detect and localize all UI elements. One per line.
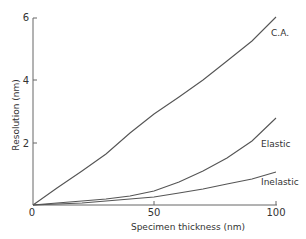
series-label-ca: C.A.: [271, 28, 289, 38]
series-label-elastic: Elastic: [261, 139, 290, 149]
y-tick-label-2: 2: [23, 138, 29, 149]
axes: [33, 18, 277, 205]
series-line-elastic: [33, 118, 276, 205]
y-axis-title: Resolution (nm): [11, 79, 21, 150]
y-tick-label-6: 6: [23, 12, 29, 23]
series-line-inelastic: [33, 172, 276, 205]
resolution-vs-thickness-chart: 6 4 2 0 50 100 Specimen thickness (nm) R…: [0, 0, 306, 239]
series-label-inelastic: Inelastic: [261, 177, 299, 187]
x-tick-label-100: 100: [266, 207, 285, 218]
x-axis-title: Specimen thickness (nm): [131, 222, 245, 232]
series-line-ca: [33, 17, 276, 205]
x-tick-label-50: 50: [148, 207, 161, 218]
x-tick-label-0: 0: [29, 207, 35, 218]
y-tick-label-4: 4: [23, 75, 29, 86]
